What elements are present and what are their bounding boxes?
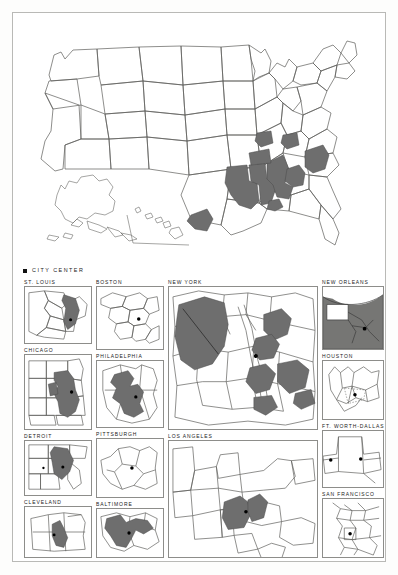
panel-label: BOSTON <box>96 279 122 285</box>
panel-san-francisco[interactable]: SAN FRANCISCO <box>321 491 385 559</box>
panel-map <box>322 286 384 350</box>
panel-label: CLEVELAND <box>24 499 62 505</box>
panel-label: HOUSTON <box>322 353 353 359</box>
panel-cleveland[interactable]: CLEVELAND <box>23 499 93 559</box>
panel-new-york[interactable]: NEW YORK <box>167 279 319 431</box>
panel-label: CHICAGO <box>24 347 54 353</box>
panel-houston[interactable]: HOUSTON <box>321 353 385 421</box>
panel-philadelphia[interactable]: PHILADELPHIA <box>95 353 165 429</box>
panel-new-orleans[interactable]: NEW ORLEANS <box>321 279 385 351</box>
panel-map <box>24 506 92 558</box>
panel-map <box>96 438 164 498</box>
panel-map <box>322 430 384 488</box>
panel-map <box>24 440 92 496</box>
panel-detroit[interactable]: DETROIT <box>23 433 93 497</box>
panel-map <box>24 354 92 430</box>
panel-label: LOS ANGELES <box>168 433 213 439</box>
panel-map <box>96 508 164 558</box>
legend-label: CITY CENTER <box>32 268 84 273</box>
panel-boston[interactable]: BOSTON <box>95 279 165 351</box>
panel-st-louis[interactable]: ST. LOUIS <box>23 279 93 345</box>
panel-map <box>322 498 384 558</box>
figure-page: CITY CENTER ST. LOUIS CHICAGO <box>0 0 398 575</box>
panel-label: DETROIT <box>24 433 52 439</box>
panel-pittsburgh[interactable]: PITTSBURGH <box>95 431 165 499</box>
panel-label: SAN FRANCISCO <box>322 491 375 497</box>
panel-label: PHILADELPHIA <box>96 353 143 359</box>
panel-label: NEW YORK <box>168 279 202 285</box>
legend: CITY CENTER <box>23 265 84 277</box>
panel-label: BALTIMORE <box>96 501 133 507</box>
city-center-dot-icon <box>23 269 27 273</box>
panel-label: FT. WORTH-DALLAS <box>322 423 384 429</box>
panel-baltimore[interactable]: BALTIMORE <box>95 501 165 559</box>
panel-label: NEW ORLEANS <box>322 279 369 285</box>
panel-map <box>96 286 164 350</box>
metro-panel-grid: ST. LOUIS CHICAGO <box>15 279 385 561</box>
panel-map <box>168 440 318 558</box>
panel-ft-worth-dallas[interactable]: FT. WORTH-DALLAS <box>321 423 385 489</box>
panel-map <box>168 286 318 430</box>
panel-label: ST. LOUIS <box>24 279 56 285</box>
national-map <box>21 19 377 257</box>
panel-map <box>24 286 92 344</box>
figure-sheet: CITY CENTER ST. LOUIS CHICAGO <box>12 12 386 562</box>
panel-map <box>322 360 384 420</box>
panel-map <box>96 360 164 428</box>
panel-chicago[interactable]: CHICAGO <box>23 347 93 431</box>
panel-label: PITTSBURGH <box>96 431 137 437</box>
panel-los-angeles[interactable]: LOS ANGELES <box>167 433 319 559</box>
